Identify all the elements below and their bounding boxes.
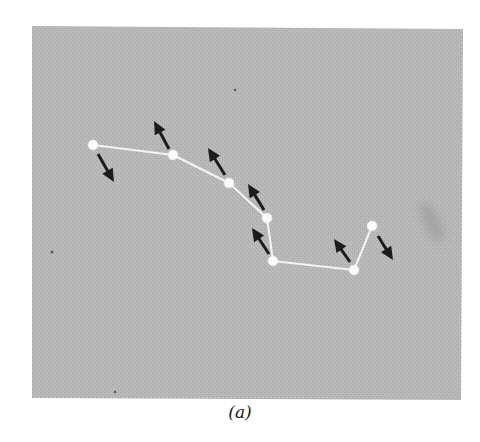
node-point xyxy=(88,140,98,150)
node-point xyxy=(262,213,272,223)
node-point xyxy=(224,178,234,188)
node-point xyxy=(349,265,359,275)
node-point xyxy=(367,221,377,231)
speck xyxy=(114,391,116,393)
speck xyxy=(234,89,236,91)
node-point xyxy=(268,256,278,266)
panel-background xyxy=(32,26,463,400)
figure-canvas xyxy=(0,0,480,442)
speck xyxy=(51,251,54,254)
figure-caption: (a) xyxy=(0,402,480,422)
node-point xyxy=(168,150,178,160)
gray-panel xyxy=(32,26,463,400)
